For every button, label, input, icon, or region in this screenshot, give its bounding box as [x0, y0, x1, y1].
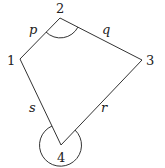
edge-label-r: r [101, 100, 108, 115]
edge-label-q: q [102, 22, 110, 37]
edge-q [60, 18, 142, 60]
angle-mark-vertex-2 [46, 27, 78, 38]
vertex-label-2: 2 [56, 1, 64, 16]
vertex-label-1: 1 [7, 53, 15, 68]
vertex-label-4: 4 [57, 150, 65, 165]
edge-s [20, 59, 61, 145]
vertex-label-3: 3 [146, 53, 154, 68]
edge-label-s: s [29, 100, 36, 115]
edge-label-p: p [29, 22, 38, 37]
edge-p [20, 18, 60, 59]
quadrilateral-diagram: 1 2 3 4 p q r s [0, 0, 165, 168]
